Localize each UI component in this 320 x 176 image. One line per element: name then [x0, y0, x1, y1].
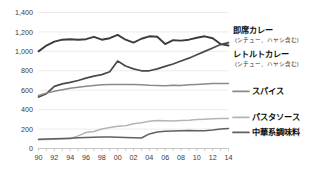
legend-label: 中華系調味料 — [252, 127, 301, 137]
y-axis-tick-label: 1,400 — [15, 8, 33, 17]
gridlines-group — [39, 13, 229, 149]
legend-sublabel: (シチュー、ハヤシ含む) — [235, 60, 299, 68]
series-line-5 — [39, 129, 229, 140]
legend-label: 即席カレー — [233, 25, 273, 35]
y-axis-tick-label: 400 — [21, 105, 33, 114]
x-axis-tick-label: 06 — [161, 153, 169, 162]
chart-legend: 即席カレー(シチュー、ハヤシ含む)レトルトカレー(シチュー、ハヤシ含む)スパイス… — [233, 25, 301, 137]
legend-item: 中華系調味料 — [233, 127, 301, 137]
series-line-3 — [39, 83, 229, 95]
y-axis-tick-label: 800 — [21, 66, 33, 75]
x-axis-tick-label: 98 — [98, 153, 106, 162]
x-axis-tick-label: 96 — [82, 153, 90, 162]
x-axis-tick-label: 08 — [177, 153, 185, 162]
x-axis-tick-label: 12 — [209, 153, 217, 162]
series-lines-group — [39, 35, 229, 140]
x-axis-tick-label: 02 — [130, 153, 138, 162]
legend-sublabel: (シチュー、ハヤシ含む) — [235, 36, 299, 44]
legend-label: レトルトカレー — [233, 50, 289, 59]
x-axis-tick-label: 00 — [114, 153, 122, 162]
x-axis-tick-label: 10 — [193, 153, 201, 162]
legend-item: 即席カレー(シチュー、ハヤシ含む) — [233, 25, 299, 44]
y-axis-tick-labels: 02004006008001,0001,2001,400 — [15, 8, 33, 153]
x-axis-tick-label: 92 — [50, 153, 58, 162]
legend-label: パスタソース — [252, 112, 300, 122]
x-axis-tick-label: 94 — [66, 153, 74, 162]
legend-item: スパイス — [233, 86, 284, 96]
x-axis-tick-labels: 90929496980002040608101214 — [35, 153, 233, 162]
legend-item: レトルトカレー(シチュー、ハヤシ含む) — [233, 50, 299, 68]
legend-label: スパイス — [252, 86, 284, 96]
chart-canvas: 02004006008001,0001,2001,400 90929496980… — [0, 0, 320, 176]
x-axis-tick-label: 90 — [35, 153, 43, 162]
y-axis-tick-label: 0 — [29, 144, 33, 153]
series-line-1 — [39, 35, 229, 52]
x-axis-tick-label: 14 — [225, 153, 233, 162]
line-chart: 02004006008001,0001,2001,400 90929496980… — [0, 0, 320, 176]
legend-item: パスタソース — [233, 112, 300, 122]
y-axis-tick-label: 1,200 — [15, 28, 33, 37]
x-axis-tick-label: 04 — [145, 153, 153, 162]
x-axis — [39, 149, 229, 151]
y-axis-tick-label: 600 — [21, 86, 33, 95]
y-axis-tick-label: 1,000 — [15, 47, 33, 56]
y-axis-tick-label: 200 — [21, 125, 33, 134]
